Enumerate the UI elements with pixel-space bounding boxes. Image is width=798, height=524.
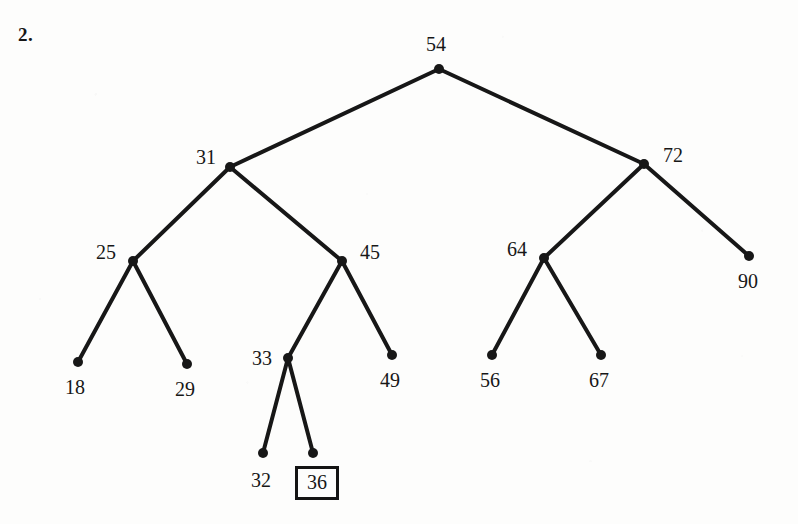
tree-node-label: 56 — [480, 370, 500, 390]
tree-edge — [230, 69, 439, 167]
tree-edge — [492, 258, 544, 355]
tree-node-label: 72 — [663, 145, 683, 165]
tree-node-label: 67 — [589, 370, 609, 390]
tree-edge — [342, 261, 392, 355]
tree-node-label: 32 — [251, 470, 271, 490]
tree-node-label: 64 — [507, 239, 527, 259]
tree-node-dot[interactable] — [283, 353, 293, 363]
tree-edge — [439, 69, 644, 164]
tree-node-label: 33 — [252, 348, 272, 368]
tree-node-label: 31 — [196, 147, 216, 167]
tree-node-dot[interactable] — [387, 350, 397, 360]
tree-node-label: 90 — [738, 271, 758, 291]
tree-node-dot[interactable] — [225, 162, 235, 172]
tree-edge — [133, 167, 230, 261]
tree-edge — [288, 261, 342, 358]
tree-node-label: 18 — [65, 377, 85, 397]
tree-node-label: 45 — [360, 242, 380, 262]
tree-node-label: 49 — [380, 370, 400, 390]
tree-node-dot[interactable] — [258, 448, 268, 458]
tree-node-dot[interactable] — [73, 357, 83, 367]
tree-edge — [78, 261, 133, 362]
tree-node-label-highlighted: 36 — [295, 466, 339, 500]
tree-edge — [263, 358, 288, 453]
tree-edge — [644, 164, 749, 256]
tree-node-dot[interactable] — [539, 253, 549, 263]
tree-node-label: 25 — [96, 242, 116, 262]
tree-edge — [544, 258, 601, 355]
tree-node-dot[interactable] — [434, 64, 444, 74]
tree-node-dot[interactable] — [308, 448, 318, 458]
tree-node-dot[interactable] — [596, 350, 606, 360]
tree-node-dot[interactable] — [744, 251, 754, 261]
tree-node-dot[interactable] — [182, 359, 192, 369]
tree-node-dot[interactable] — [639, 159, 649, 169]
tree-node-dot[interactable] — [337, 256, 347, 266]
figure-canvas: 2. 543172254564901829334956673236 — [0, 0, 798, 524]
tree-node-label: 29 — [175, 379, 195, 399]
tree-edge — [544, 164, 644, 258]
tree-node-label: 54 — [426, 34, 446, 54]
tree-node-dot[interactable] — [128, 256, 138, 266]
tree-edge — [288, 358, 313, 453]
tree-node-dot[interactable] — [487, 350, 497, 360]
tree-edge — [133, 261, 187, 364]
binary-tree-graphic — [0, 0, 798, 524]
tree-edge — [230, 167, 342, 261]
